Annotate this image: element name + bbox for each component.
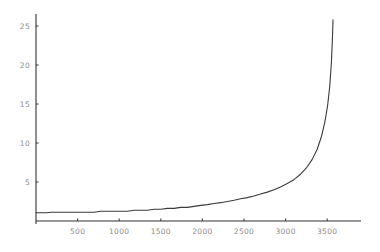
x-axis-tick-label: 2500 <box>234 227 254 236</box>
y-axis-tick-label: 5 <box>8 178 30 187</box>
y-axis-tick-label: 10 <box>8 139 30 148</box>
y-axis-tick-label: 20 <box>8 61 30 70</box>
x-axis-tick-label: 3500 <box>317 227 337 236</box>
x-axis-tick-label: 1000 <box>109 227 129 236</box>
x-axis-tick-label: 3000 <box>275 227 295 236</box>
y-axis-tick-label: 25 <box>8 22 30 31</box>
x-axis-tick-label: 1500 <box>151 227 171 236</box>
data-series-line <box>36 20 333 213</box>
x-axis-tick-label: 500 <box>70 227 85 236</box>
chart-svg <box>0 0 380 252</box>
y-axis-tick-label: 15 <box>8 100 30 109</box>
chart-canvas: 500100015002000250030003500 510152025 <box>0 0 380 252</box>
axis-group <box>36 14 361 224</box>
x-axis-tick-label: 2000 <box>192 227 212 236</box>
